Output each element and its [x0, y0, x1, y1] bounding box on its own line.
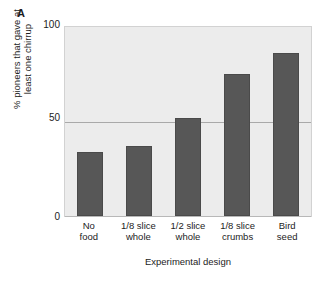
bar-series [65, 27, 311, 216]
bar-eighth-slice-crumbs [224, 74, 250, 216]
x-tick-label: No food [64, 220, 114, 242]
y-axis-title-line-1: % pioneers that gave at [11, 0, 22, 139]
x-axis: No food 1/8 slice whole 1/2 slice whole … [64, 220, 312, 242]
y-tick-label-100: 100 [43, 20, 60, 30]
x-tick-line-2: whole [114, 231, 164, 242]
y-axis-title: % pioneers that gave at least one chirru… [11, 0, 33, 139]
x-tick-line-1: 1/2 slice [163, 220, 213, 231]
bar-slot [262, 27, 311, 216]
x-tick-label: 1/2 slice whole [163, 220, 213, 242]
bar-eighth-slice-whole [126, 146, 152, 216]
x-tick-label: 1/8 slice crumbs [213, 220, 263, 242]
bar-no-food [77, 152, 103, 216]
x-tick-line-1: Bird [262, 220, 312, 231]
x-tick-line-2: whole [163, 231, 213, 242]
bar-slot [163, 27, 212, 216]
plot-area [64, 26, 312, 217]
y-tick-label-0: 0 [54, 212, 60, 222]
x-tick-label: Bird seed [262, 220, 312, 242]
x-tick-label: 1/8 slice whole [114, 220, 164, 242]
bar-slot [65, 27, 114, 216]
y-axis-title-line-2: least one chirrup [22, 0, 33, 139]
plot-inner [65, 27, 311, 216]
x-tick-line-1: No [64, 220, 114, 231]
bar-slot [114, 27, 163, 216]
x-tick-line-1: 1/8 slice [114, 220, 164, 231]
bar-chart-figure: A 100 50 0 % pioneers that gave at least… [0, 0, 332, 281]
y-tick-label-50: 50 [49, 113, 60, 123]
x-tick-line-2: crumbs [213, 231, 263, 242]
x-tick-line-1: 1/8 slice [213, 220, 263, 231]
bar-slot [213, 27, 262, 216]
x-tick-line-2: seed [262, 231, 312, 242]
axis-baseline [65, 216, 311, 217]
bar-half-slice-whole [175, 118, 201, 216]
x-tick-labels: No food 1/8 slice whole 1/2 slice whole … [64, 220, 312, 242]
x-axis-title: Experimental design [64, 256, 312, 267]
x-tick-line-2: food [64, 231, 114, 242]
bar-bird-seed [273, 53, 299, 216]
y-axis: 100 50 0 % pioneers that gave at least o… [0, 0, 64, 281]
